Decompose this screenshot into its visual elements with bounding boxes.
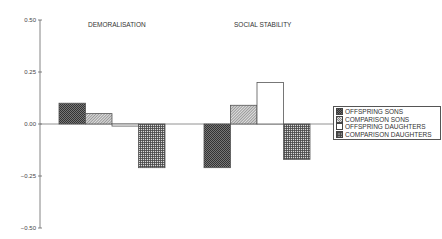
legend-label: COMPARISON DAUGHTERS (345, 131, 432, 139)
legend-item-comparison-sons: COMPARISON SONS (336, 116, 438, 124)
bar-comparison-daughters (139, 124, 166, 168)
y-tick-label: −0.50 (21, 225, 37, 231)
y-tick-label: −0.25 (21, 173, 37, 179)
legend-item-offspring-sons: OFFSPRING SONS (336, 108, 438, 116)
bar-comparison-sons (86, 114, 113, 124)
swatch-white-icon (336, 123, 343, 130)
bar-offspring-daughters (257, 82, 284, 124)
y-tick-label: 0.50 (24, 17, 36, 23)
bar-comparison-daughters (284, 124, 311, 159)
legend-label: COMPARISON SONS (345, 116, 409, 124)
legend-item-offspring-daughters: OFFSPRING DAUGHTERS (336, 123, 438, 131)
legend: OFFSPRING SONS COMPARISON SONS OFFSPRING… (333, 106, 441, 140)
swatch-grid-icon (336, 131, 343, 138)
group-label-demoralisation: DEMORALISATION (88, 21, 146, 28)
y-tick-label: 0.25 (24, 69, 36, 75)
legend-item-comparison-daughters: COMPARISON DAUGHTERS (336, 131, 438, 139)
swatch-checker-icon (336, 108, 343, 115)
swatch-hatch-icon (336, 116, 343, 123)
bar-offspring-daughters (112, 124, 139, 126)
bar-offspring-sons (204, 124, 231, 168)
y-axis: 0.500.250.00−0.25−0.50 (21, 17, 42, 231)
legend-label: OFFSPRING DAUGHTERS (345, 123, 426, 131)
bars (59, 82, 310, 167)
bar-comparison-sons (231, 105, 258, 124)
bar-offspring-sons (59, 103, 86, 124)
legend-label: OFFSPRING SONS (345, 108, 403, 116)
group-label-social-stability: SOCIAL STABILITY (234, 21, 292, 28)
y-tick-label: 0.00 (24, 121, 36, 127)
